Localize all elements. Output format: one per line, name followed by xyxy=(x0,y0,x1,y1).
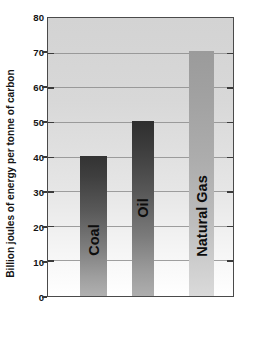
tick-mark-right-60 xyxy=(227,87,233,89)
tick-mark-right-10 xyxy=(227,260,233,262)
y-axis-title-text: Billion joules of energy per tonne of ca… xyxy=(5,69,16,277)
bar-natural-gas[interactable]: Natural Gas xyxy=(189,51,214,296)
tick-mark-right-70 xyxy=(227,53,233,55)
tick-mark-left-60 xyxy=(48,87,54,89)
tick-mark-right-40 xyxy=(227,157,233,159)
bar-label-coal: Coal xyxy=(86,224,102,255)
bar-coal[interactable]: Coal xyxy=(80,156,107,296)
y-axis-title: Billion joules of energy per tonne of ca… xyxy=(0,0,20,347)
y-tick-label-80: 80 xyxy=(33,12,44,23)
tick-mark-right-20 xyxy=(227,226,233,228)
tick-mark-right-50 xyxy=(227,122,233,124)
tick-mark-left-10 xyxy=(48,260,54,262)
tick-mark-left-20 xyxy=(48,226,54,228)
tick-mark-left-70 xyxy=(48,53,54,55)
bar-label-oil: Oil xyxy=(135,198,151,217)
bar-label-natural-gas: Natural Gas xyxy=(194,175,210,256)
tick-mark-left-30 xyxy=(48,191,54,193)
bar-chart-figure: Billion joules of energy per tonne of ca… xyxy=(0,0,263,347)
tick-mark-right-30 xyxy=(227,191,233,193)
tick-mark-left-50 xyxy=(48,122,54,124)
tick-mark-left-40 xyxy=(48,157,54,159)
bar-oil[interactable]: Oil xyxy=(132,121,154,296)
plot-area: Coal Oil Natural Gas xyxy=(47,17,234,297)
